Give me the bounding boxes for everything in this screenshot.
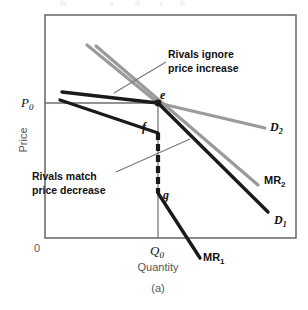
annotation-rivals-ignore-line2: price increase bbox=[168, 62, 239, 74]
curve-label-d1: D1 bbox=[273, 213, 287, 229]
x-axis-title: Quantity bbox=[138, 261, 179, 273]
curve-mr1-lower-segment bbox=[158, 193, 200, 258]
top-cropped-text-artifact bbox=[60, 1, 185, 6]
curve-d2-upper-segment bbox=[87, 45, 158, 103]
y-axis-title: Price bbox=[17, 127, 29, 152]
point-label-e: e bbox=[160, 88, 166, 102]
curve-d2-lower-segment bbox=[158, 103, 265, 128]
x-tick-label-q0: Q0 bbox=[150, 243, 164, 260]
curve-d1-lower-segment bbox=[158, 103, 268, 212]
curve-label-mr1: MR1 bbox=[203, 251, 225, 266]
point-label-g: g bbox=[162, 188, 169, 202]
annotation-rivals-ignore-line1: Rivals ignore bbox=[168, 48, 234, 60]
annotation-rivals-match-line1: Rivals match bbox=[32, 170, 97, 182]
kinked-demand-curve-figure: Price Quantity 0 P0 Q0 e f g D2 MR2 D1 M… bbox=[0, 0, 308, 310]
curve-d1-upper-segment bbox=[62, 92, 158, 103]
y-tick-label-p0: P0 bbox=[20, 95, 34, 112]
panel-label: (a) bbox=[151, 282, 164, 294]
origin-label: 0 bbox=[34, 242, 40, 254]
leader-line-rivals-match bbox=[116, 139, 190, 172]
point-label-f: f bbox=[142, 120, 147, 134]
curve-label-d2: D2 bbox=[269, 120, 283, 136]
annotation-rivals-match-line2: price decrease bbox=[32, 184, 106, 196]
curve-label-mr2: MR2 bbox=[264, 174, 286, 189]
